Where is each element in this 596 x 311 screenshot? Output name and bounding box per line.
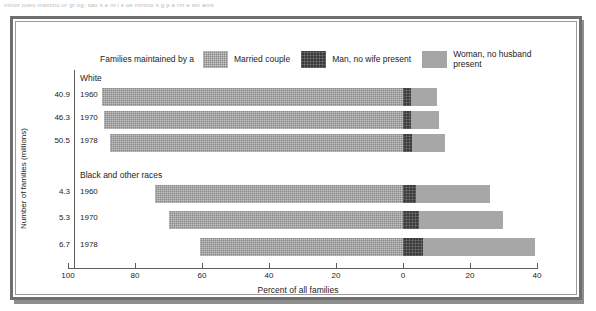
bar-segment bbox=[169, 211, 404, 229]
x-axis-tick bbox=[135, 263, 136, 268]
bar-segment bbox=[411, 111, 439, 129]
x-axis-tick bbox=[537, 263, 538, 268]
x-axis-tick-label: 80 bbox=[120, 271, 150, 280]
bar-segment bbox=[102, 88, 404, 106]
legend-label-man-no-wife: Man, no wife present bbox=[332, 54, 411, 64]
bar-segment bbox=[110, 134, 403, 152]
woman-no-husband-swatch bbox=[422, 51, 447, 68]
legend-label-woman-no-husband: Woman, no husband present bbox=[453, 49, 531, 69]
row-count-black-1978: 6.7 bbox=[32, 240, 70, 249]
label-column-divider bbox=[74, 70, 75, 268]
man-no-wife-swatch bbox=[301, 51, 326, 68]
chart-legend: Families maintained by a Married couple … bbox=[100, 46, 570, 72]
scanned-figure-page: Families maintained by a Married couple … bbox=[0, 12, 596, 311]
x-axis-tick-label: 60 bbox=[187, 271, 217, 280]
bar-segment bbox=[403, 211, 419, 229]
bar-segment bbox=[412, 134, 446, 152]
x-axis-tick-label: 100 bbox=[53, 271, 83, 280]
bar-segment bbox=[403, 88, 411, 106]
married-couple-swatch bbox=[203, 51, 228, 68]
x-axis-tick-label: 0 bbox=[388, 271, 418, 280]
bar-segment bbox=[403, 238, 423, 256]
legend-item-woman-no-husband: Woman, no husband present bbox=[422, 49, 531, 69]
legend-intro-text: Families maintained by a bbox=[100, 54, 194, 64]
row-year-black-1960: 1960 bbox=[80, 187, 106, 196]
x-axis-tick bbox=[470, 263, 471, 268]
bar-segment bbox=[403, 134, 412, 152]
row-count-black-1970: 5.3 bbox=[32, 213, 70, 222]
row-year-black-1970: 1970 bbox=[80, 213, 106, 222]
x-axis-tick bbox=[403, 263, 404, 268]
bar-row bbox=[200, 238, 535, 256]
bar-segment bbox=[200, 238, 403, 256]
x-axis-tick bbox=[336, 263, 337, 268]
row-year-white-1970: 1970 bbox=[80, 113, 106, 122]
bar-row bbox=[104, 111, 439, 129]
bar-segment bbox=[416, 185, 490, 203]
bar-segment bbox=[155, 185, 403, 203]
bar-row bbox=[155, 185, 490, 203]
x-axis-tick-label: 20 bbox=[321, 271, 351, 280]
legend-item-man-no-wife: Man, no wife present bbox=[301, 51, 411, 68]
row-count-white-1978: 50.5 bbox=[32, 136, 70, 145]
bar-segment bbox=[403, 185, 416, 203]
legend-item-married-couple: Married couple bbox=[203, 51, 290, 68]
bar-segment bbox=[104, 111, 403, 129]
row-count-white-1960: 40.9 bbox=[32, 90, 70, 99]
x-axis-line bbox=[68, 268, 538, 269]
row-count-white-1970: 46.3 bbox=[32, 113, 70, 122]
row-year-white-1978: 1978 bbox=[80, 136, 106, 145]
bar-row bbox=[110, 134, 445, 152]
group-heading-white: White bbox=[80, 73, 102, 83]
x-axis-title: Percent of all families bbox=[0, 285, 596, 295]
bar-row bbox=[169, 211, 504, 229]
legend-label-married-couple: Married couple bbox=[234, 54, 290, 64]
y-axis-title: Number of families (millions) bbox=[19, 99, 28, 259]
page-bleed-text: minor oceu maximo ur gr og; sau s e m i … bbox=[0, 0, 596, 12]
x-axis-tick bbox=[202, 263, 203, 268]
bar-row bbox=[102, 88, 437, 106]
group-heading-black-and-other-races: Black and other races bbox=[80, 170, 162, 180]
x-axis-tick-label: 20 bbox=[455, 271, 485, 280]
x-axis-tick-label: 40 bbox=[254, 271, 284, 280]
bar-segment bbox=[423, 238, 535, 256]
bar-segment bbox=[411, 88, 436, 106]
x-axis-tick bbox=[269, 263, 270, 268]
bar-segment bbox=[403, 111, 411, 129]
row-year-black-1978: 1978 bbox=[80, 240, 106, 249]
x-axis-tick bbox=[68, 263, 69, 268]
row-count-black-1960: 4.3 bbox=[32, 187, 70, 196]
bar-segment bbox=[419, 211, 503, 229]
x-axis-tick-label: 40 bbox=[522, 271, 552, 280]
